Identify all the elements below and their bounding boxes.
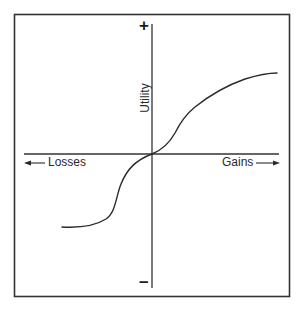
y-axis-label: Utility	[138, 80, 152, 116]
x-axis-positive-label: Gains	[222, 155, 253, 169]
value-function-curve	[62, 73, 277, 227]
utility-diagram: + – Utility Losses Gains	[0, 0, 302, 309]
negative-sign: –	[139, 274, 148, 290]
x-axis-negative-label: Losses	[48, 155, 86, 169]
losses-arrow-icon	[24, 161, 45, 166]
gains-arrow-icon	[256, 161, 280, 166]
positive-sign: +	[139, 18, 149, 34]
diagram-canvas	[0, 0, 302, 309]
